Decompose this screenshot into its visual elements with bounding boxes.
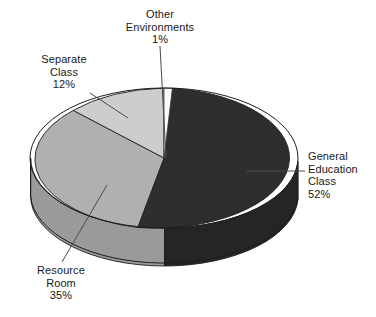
slice-label-separate-class: Separate Class 12% xyxy=(24,53,104,91)
slice-label-general-education-line1: General xyxy=(308,150,374,163)
slice-label-other-environments: Other Environments 1% xyxy=(106,8,214,46)
pie-top-face xyxy=(35,88,290,228)
slice-label-resource-room: Resource Room 35% xyxy=(18,264,104,302)
slice-label-other-environments-line2: Environments xyxy=(106,21,214,34)
slice-label-general-education-line2: Education xyxy=(308,163,374,176)
slice-label-general-education-value: 52% xyxy=(308,188,374,201)
slice-label-other-environments-line1: Other xyxy=(106,8,214,21)
slice-label-resource-room-line2: Room xyxy=(18,277,104,290)
pie-chart: Other Environments 1% Separate Class 12%… xyxy=(0,0,376,317)
slice-label-resource-room-line1: Resource xyxy=(18,264,104,277)
slice-label-general-education-line3: Class xyxy=(308,175,374,188)
slice-label-separate-class-value: 12% xyxy=(24,78,104,91)
slice-label-general-education-class: General Education Class 52% xyxy=(308,150,374,200)
slice-label-other-environments-value: 1% xyxy=(106,33,214,46)
slice-label-separate-class-line2: Class xyxy=(24,66,104,79)
slice-label-separate-class-line1: Separate xyxy=(24,53,104,66)
slice-label-resource-room-value: 35% xyxy=(18,289,104,302)
